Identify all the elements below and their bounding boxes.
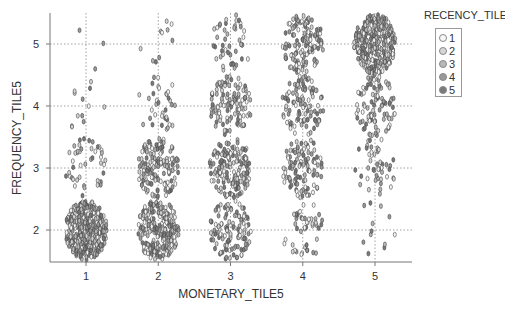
data-point — [70, 226, 73, 231]
data-point — [302, 153, 305, 158]
data-point — [318, 212, 321, 217]
scatter-chart: 123452345 MONETARY_TILE5 FREQUENCY_TILE5… — [0, 0, 505, 313]
data-point — [224, 215, 227, 220]
data-point — [368, 44, 371, 49]
data-point — [304, 157, 307, 162]
data-point — [236, 177, 239, 182]
data-point — [317, 226, 320, 231]
data-point — [248, 240, 251, 245]
data-point — [315, 28, 318, 33]
data-point — [388, 101, 391, 106]
data-point — [215, 241, 218, 246]
data-point — [226, 207, 229, 212]
data-point — [220, 152, 223, 157]
data-point — [219, 232, 222, 237]
data-point — [230, 207, 233, 212]
data-point — [226, 108, 229, 113]
data-point — [74, 203, 77, 208]
x-tick-label: 1 — [83, 270, 89, 282]
data-point — [78, 218, 81, 223]
data-point — [249, 113, 252, 118]
data-point — [219, 186, 222, 191]
data-point — [161, 30, 164, 35]
data-point — [231, 181, 234, 186]
data-point — [316, 122, 319, 127]
data-point — [216, 82, 219, 87]
data-point — [65, 230, 68, 235]
data-point — [310, 18, 313, 23]
data-point — [171, 123, 174, 128]
data-point — [321, 218, 324, 223]
data-point — [380, 47, 383, 52]
data-point — [154, 112, 157, 117]
data-point — [164, 227, 167, 232]
data-point — [391, 105, 394, 110]
data-point — [232, 62, 235, 67]
data-point — [371, 92, 374, 97]
y-tick-label: 4 — [33, 100, 39, 112]
data-point — [312, 250, 315, 255]
data-point — [235, 13, 238, 18]
data-point — [222, 122, 225, 127]
data-point — [241, 206, 244, 211]
data-point — [315, 237, 318, 242]
data-point — [305, 52, 308, 57]
data-point — [213, 228, 216, 233]
data-point — [152, 165, 155, 170]
data-point — [141, 226, 144, 231]
data-point — [287, 112, 290, 117]
data-point — [388, 116, 391, 121]
data-point — [316, 185, 319, 190]
data-point — [353, 45, 356, 50]
data-point — [366, 176, 369, 181]
data-point — [303, 225, 306, 230]
data-point — [291, 243, 294, 248]
data-point — [304, 141, 307, 146]
data-point — [90, 79, 93, 84]
data-point — [96, 183, 99, 188]
data-point — [76, 149, 79, 154]
data-point — [81, 113, 84, 118]
data-point — [381, 170, 384, 175]
data-point — [96, 252, 99, 257]
data-point — [287, 156, 290, 161]
legend-label: 3 — [449, 58, 455, 70]
data-point — [214, 208, 217, 213]
data-point — [173, 103, 176, 108]
data-point — [150, 224, 153, 229]
data-point — [97, 211, 100, 216]
data-point — [381, 69, 384, 74]
data-point — [286, 120, 289, 125]
data-point — [228, 220, 231, 225]
data-point — [243, 181, 246, 186]
data-point — [362, 85, 365, 90]
data-point — [213, 27, 216, 32]
legend-swatch-2-icon — [439, 47, 447, 55]
data-point — [80, 225, 83, 230]
data-point — [233, 97, 236, 102]
data-point — [170, 214, 173, 219]
data-point — [148, 229, 151, 234]
data-point — [209, 219, 212, 224]
data-point — [229, 161, 232, 166]
data-point — [158, 137, 161, 142]
data-point — [377, 52, 380, 57]
data-point — [100, 161, 103, 166]
data-point — [228, 256, 231, 261]
data-point — [377, 16, 380, 21]
data-point — [373, 23, 376, 28]
legend-item-3: 3 — [439, 58, 455, 70]
data-point — [301, 37, 304, 42]
data-point — [88, 224, 91, 229]
data-point — [242, 176, 245, 181]
data-point — [242, 113, 245, 118]
data-point — [373, 103, 376, 108]
data-point — [81, 97, 84, 102]
data-point — [86, 205, 89, 210]
data-point — [294, 171, 297, 176]
data-point — [304, 102, 307, 107]
data-point — [239, 102, 242, 107]
data-point — [290, 142, 293, 147]
data-point — [165, 216, 168, 221]
data-point — [65, 174, 68, 179]
